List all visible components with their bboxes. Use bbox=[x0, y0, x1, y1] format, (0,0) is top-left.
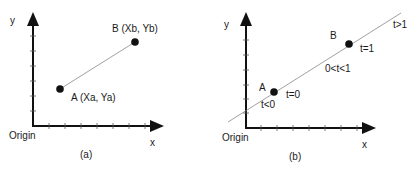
panel-b-y-axis-label: y bbox=[224, 20, 229, 30]
panel-b-point-a bbox=[270, 88, 278, 96]
panel-b-t-after-b-label: t>1 bbox=[393, 20, 407, 30]
panel-a-x-axis-label: x bbox=[150, 138, 155, 148]
diagram-canvas bbox=[0, 0, 414, 176]
panel-b-x-axis-label: x bbox=[362, 140, 367, 150]
panel-b-graphics bbox=[228, 12, 401, 134]
panel-b-point-a-label: A bbox=[259, 83, 266, 93]
panel-a-origin-label: Origin bbox=[9, 131, 36, 141]
panel-a-y-arrow-icon bbox=[27, 12, 39, 26]
panel-b-caption: (b) bbox=[289, 152, 301, 162]
panel-b-parametric-line bbox=[228, 13, 401, 122]
panel-a-point-b-label: B (Xb, Yb) bbox=[112, 24, 158, 34]
panel-a-segment-ab bbox=[60, 42, 135, 89]
panel-a-y-axis-label: y bbox=[10, 16, 15, 26]
panel-b-point-b-label: B bbox=[330, 31, 337, 41]
panel-b-t-between-label: 0<t<1 bbox=[325, 64, 351, 74]
panel-a-point-a-label: A (Xa, Ya) bbox=[71, 93, 116, 103]
panel-a-point-b bbox=[131, 38, 139, 46]
panel-a-caption: (a) bbox=[80, 150, 92, 160]
panel-b-t-before-a-label: t<0 bbox=[261, 100, 275, 110]
panel-a-point-a bbox=[56, 85, 64, 93]
panel-a-x-arrow-icon bbox=[150, 120, 164, 132]
panel-b-t-at-b-label: t=1 bbox=[360, 44, 374, 54]
panel-b-y-arrow-icon bbox=[240, 12, 252, 26]
panel-b-x-arrow-icon bbox=[362, 122, 376, 134]
panel-b-t-at-a-label: t=0 bbox=[286, 90, 300, 100]
panel-b-origin-label: Origin bbox=[222, 133, 249, 143]
panel-b-point-b bbox=[345, 40, 353, 48]
